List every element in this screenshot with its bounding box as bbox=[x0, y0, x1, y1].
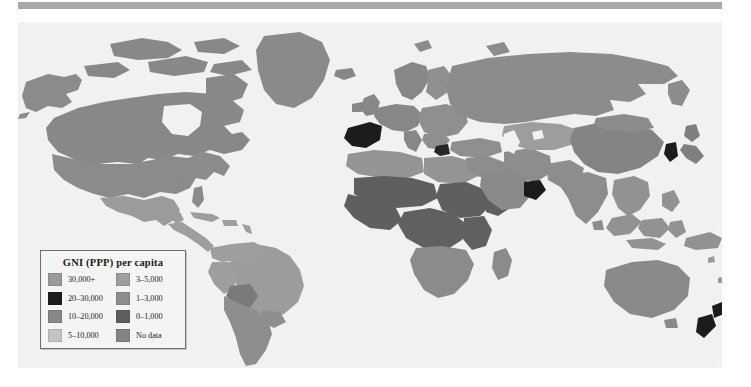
legend-swatch-3000-5000 bbox=[116, 273, 130, 286]
legend-swatch-5000-10000 bbox=[48, 329, 62, 342]
legend-swatch-no-data bbox=[116, 329, 130, 342]
region-hispaniola bbox=[222, 220, 238, 226]
legend-item-3000-5000: 3–5,000 bbox=[116, 273, 178, 286]
legend-item-20000-30000: 20–30,000 bbox=[48, 292, 110, 305]
legend-title: GNI (PPP) per capita bbox=[41, 257, 185, 268]
legend-item-1000-3000: 1–3,000 bbox=[116, 292, 178, 305]
legend-swatch-10000-20000 bbox=[48, 310, 62, 323]
legend-label-10000-20000: 10–20,000 bbox=[68, 312, 103, 321]
legend-swatch-0-1000 bbox=[116, 310, 130, 323]
legend-label-3000-5000: 3–5,000 bbox=[136, 275, 163, 284]
region-fiji bbox=[718, 277, 722, 283]
legend-item-30000-plus: 30,000+ bbox=[48, 273, 110, 286]
legend-columns: 30,000+ 20–30,000 10–20,000 5–10,000 bbox=[41, 273, 185, 342]
legend-label-5000-10000: 5–10,000 bbox=[68, 331, 99, 340]
legend-swatch-30000-plus bbox=[48, 273, 62, 286]
legend-item-10000-20000: 10–20,000 bbox=[48, 310, 110, 323]
legend-column-left: 30,000+ 20–30,000 10–20,000 5–10,000 bbox=[48, 273, 110, 342]
map-legend: GNI (PPP) per capita 30,000+ 20–30,000 1… bbox=[40, 250, 186, 349]
top-rule-divider bbox=[18, 2, 722, 9]
legend-swatch-20000-30000 bbox=[48, 292, 62, 305]
legend-label-1000-3000: 1–3,000 bbox=[136, 294, 163, 303]
legend-swatch-1000-3000 bbox=[116, 292, 130, 305]
legend-label-no-data: No data bbox=[136, 331, 162, 340]
legend-label-30000-plus: 30,000+ bbox=[68, 275, 95, 284]
world-map-figure: GNI (PPP) per capita 30,000+ 20–30,000 1… bbox=[18, 22, 722, 368]
legend-item-5000-10000: 5–10,000 bbox=[48, 329, 110, 342]
legend-item-0-1000: 0–1,000 bbox=[116, 310, 178, 323]
legend-label-20000-30000: 20–30,000 bbox=[68, 294, 103, 303]
legend-item-no-data: No data bbox=[116, 329, 178, 342]
legend-label-0-1000: 0–1,000 bbox=[136, 312, 163, 321]
legend-column-right: 3–5,000 1–3,000 0–1,000 No data bbox=[116, 273, 178, 342]
